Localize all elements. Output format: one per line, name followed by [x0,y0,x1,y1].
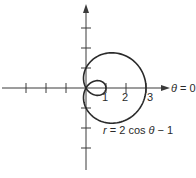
equation-part-a: = 2 cos [107,124,149,136]
theta-zero-rest: = 0 [177,82,196,94]
x-axis-arrow-icon [161,85,170,91]
polar-plot [0,0,196,178]
x-tick-label-1: 1 [102,92,108,103]
x-tick-label-3: 3 [147,92,153,103]
x-tick-label-2: 2 [122,92,128,103]
equation-part-b: − 1 [155,124,174,136]
y-axis-arrow-icon [83,4,89,13]
theta-zero-label: θ = 0 [171,83,196,94]
equation-label: r = 2 cos θ − 1 [103,125,173,136]
